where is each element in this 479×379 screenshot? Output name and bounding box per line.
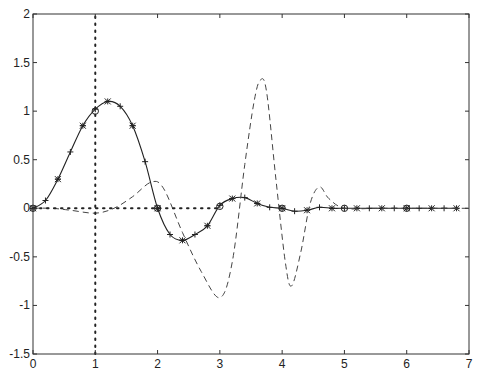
- y-tick-label: 1.5: [13, 56, 30, 70]
- solid-curve: [33, 101, 457, 240]
- x-tick-label: 7: [466, 357, 473, 371]
- y-tick-label: 2: [23, 7, 30, 21]
- y-tick-label: 0.5: [13, 153, 30, 167]
- plus-marker: [242, 195, 248, 201]
- line-chart: 01234567 -1.5-1-0.500.511.52: [0, 0, 479, 379]
- x-tick-label: 4: [279, 357, 286, 371]
- x-axis-tick-labels: 01234567: [30, 357, 473, 371]
- plus-marker: [142, 159, 148, 165]
- x-tick-label: 0: [30, 357, 37, 371]
- plus-marker: [267, 204, 273, 210]
- plot-lines: [30, 14, 469, 354]
- y-axis-tick-labels: -1.5-1-0.500.511.52: [9, 7, 30, 361]
- plus-marker: [67, 149, 73, 155]
- axis-ticks: [33, 14, 469, 354]
- y-tick-label: -1: [19, 298, 30, 312]
- x-tick-label: 3: [217, 357, 224, 371]
- plus-marker: [292, 208, 298, 214]
- x-tick-label: 5: [341, 357, 348, 371]
- y-tick-label: -0.5: [9, 250, 30, 264]
- x-tick-label: 2: [154, 357, 161, 371]
- y-tick-label: -1.5: [9, 347, 30, 361]
- plot-frame: [33, 14, 469, 354]
- y-tick-label: 0: [23, 201, 30, 215]
- x-tick-label: 6: [403, 357, 410, 371]
- plus-marker: [317, 204, 323, 210]
- plus-marker: [192, 232, 198, 238]
- x-tick-label: 1: [92, 357, 99, 371]
- y-tick-label: 1: [23, 104, 30, 118]
